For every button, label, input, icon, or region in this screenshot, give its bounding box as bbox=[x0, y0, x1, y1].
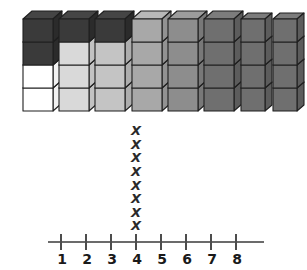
cube-tower-2 bbox=[58, 10, 99, 112]
x-mark: X bbox=[129, 179, 143, 193]
tick-label-3: 3 bbox=[102, 251, 122, 267]
cube-tower-graphic bbox=[94, 10, 135, 112]
tick-label-7: 7 bbox=[202, 251, 222, 267]
tick-3 bbox=[110, 234, 112, 250]
cube-towers-group bbox=[0, 0, 307, 112]
cube bbox=[168, 11, 207, 42]
x-mark: X bbox=[129, 151, 143, 165]
cube bbox=[204, 11, 243, 42]
cube-tower-1 bbox=[22, 10, 63, 112]
x-mark: X bbox=[129, 192, 143, 206]
tick-7 bbox=[210, 234, 212, 250]
x-mark: X bbox=[129, 165, 143, 179]
cube-tower-5 bbox=[167, 10, 208, 112]
tick-label-8: 8 bbox=[227, 251, 247, 267]
cube-tower-3 bbox=[94, 10, 135, 112]
tick-6 bbox=[185, 234, 187, 250]
cube bbox=[23, 11, 62, 42]
cube-tower-graphic bbox=[58, 10, 99, 112]
figure-canvas: XXXXXXXX 12345678 bbox=[0, 0, 307, 270]
tick-label-2: 2 bbox=[77, 251, 97, 267]
tick-2 bbox=[85, 234, 87, 250]
cube bbox=[241, 13, 272, 42]
tick-8 bbox=[235, 234, 237, 250]
tick-label-4: 4 bbox=[127, 251, 147, 267]
cube bbox=[273, 13, 304, 42]
cube-tower-graphic bbox=[272, 12, 305, 112]
tick-5 bbox=[160, 234, 162, 250]
cube-tower-8 bbox=[272, 12, 305, 112]
cube bbox=[95, 11, 134, 42]
axis-line bbox=[48, 241, 264, 243]
x-mark: X bbox=[129, 206, 143, 220]
cube-tower-7 bbox=[240, 12, 273, 112]
tick-label-6: 6 bbox=[177, 251, 197, 267]
tick-4 bbox=[135, 234, 137, 250]
number-line: 12345678 bbox=[0, 228, 307, 270]
tick-1 bbox=[60, 234, 62, 250]
cube-tower-4 bbox=[131, 10, 172, 112]
cube-tower-6 bbox=[203, 10, 244, 112]
x-mark: X bbox=[129, 124, 143, 138]
x-mark: X bbox=[129, 138, 143, 152]
cube bbox=[132, 11, 171, 42]
cube-tower-graphic bbox=[240, 12, 273, 112]
tick-label-1: 1 bbox=[52, 251, 72, 267]
cube-tower-graphic bbox=[131, 10, 172, 112]
cube-tower-graphic bbox=[167, 10, 208, 112]
dot-plot-marks: XXXXXXXX bbox=[0, 108, 307, 233]
tick-label-5: 5 bbox=[152, 251, 172, 267]
cube bbox=[59, 11, 98, 42]
x-mark-stack-at-4: XXXXXXXX bbox=[129, 124, 143, 233]
cube-tower-graphic bbox=[22, 10, 63, 112]
cube-tower-graphic bbox=[203, 10, 244, 112]
